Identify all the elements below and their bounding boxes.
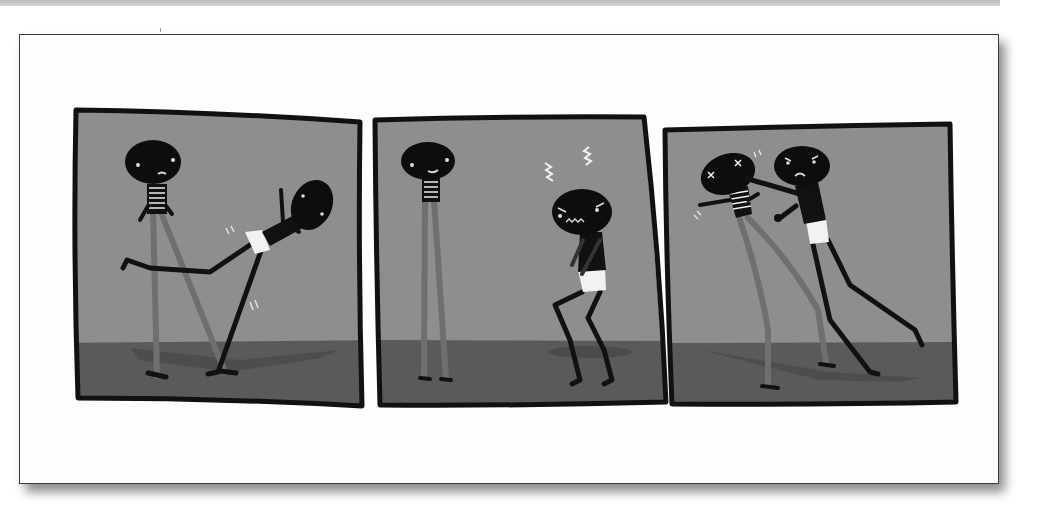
tall-character-head: [125, 140, 181, 184]
panel-3: [660, 120, 960, 410]
panel-2: [370, 110, 670, 410]
comic-strip: [0, 0, 1044, 518]
panel-1: [60, 100, 380, 420]
